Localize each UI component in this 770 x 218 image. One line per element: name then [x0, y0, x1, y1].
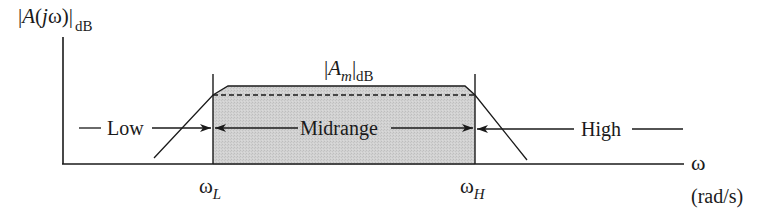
region-midrange-label: Midrange — [300, 118, 378, 138]
y-label-subscript: dB — [75, 18, 93, 34]
midband-gain-label: |Am|dB — [324, 58, 374, 79]
omega-l-subscript: L — [213, 186, 221, 202]
am-subscript: dB — [356, 68, 374, 84]
omega-l-symbol: ω — [199, 174, 213, 198]
am-a: A — [328, 56, 341, 80]
region-high-label: High — [581, 119, 621, 139]
x-axis-units: (rad/s) — [691, 186, 743, 206]
y-axis-label: |A(jω)|dB — [18, 6, 92, 27]
y-label-a: A — [22, 4, 35, 28]
y-label-close: )| — [62, 4, 73, 28]
omega-h-symbol: ω — [460, 174, 474, 198]
bode-magnitude-diagram — [0, 0, 770, 218]
region-low-label: Low — [107, 118, 144, 138]
am-m: m — [341, 68, 352, 84]
omega-l-label: ωL — [199, 176, 221, 197]
omega-h-subscript: H — [474, 186, 485, 202]
omega-h-label: ωH — [460, 176, 485, 197]
x-axis-symbol: ω — [691, 152, 705, 174]
y-label-omega: ω — [48, 4, 62, 28]
y-label-open: ( — [35, 4, 42, 28]
